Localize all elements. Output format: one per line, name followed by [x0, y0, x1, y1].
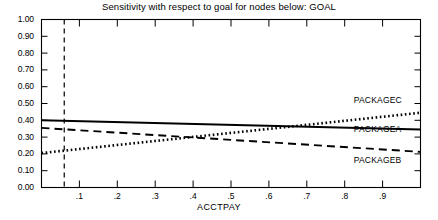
x-axis-title: ACCTPAY: [0, 202, 438, 212]
series-label-packagec: PACKAGEC: [354, 95, 402, 105]
sensitivity-chart: Sensitivity with respect to goal for nod…: [0, 0, 438, 220]
series-label-packageb: PACKAGEB: [354, 155, 402, 165]
plot-area: [0, 0, 438, 220]
series-label-packagea: PACKAGEA: [354, 124, 402, 134]
